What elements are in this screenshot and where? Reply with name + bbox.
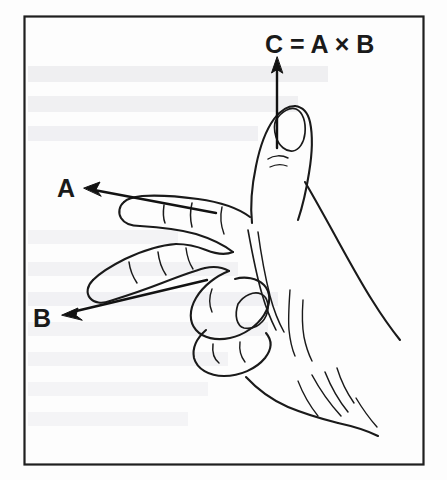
- right-hand-rule-figure: C = A × B A B: [0, 0, 447, 480]
- vector-c-label: C = A × B: [265, 30, 374, 58]
- figure-container: C = A × B A B: [0, 0, 447, 480]
- vector-b-label: B: [33, 304, 51, 332]
- vector-a-label: A: [57, 174, 75, 202]
